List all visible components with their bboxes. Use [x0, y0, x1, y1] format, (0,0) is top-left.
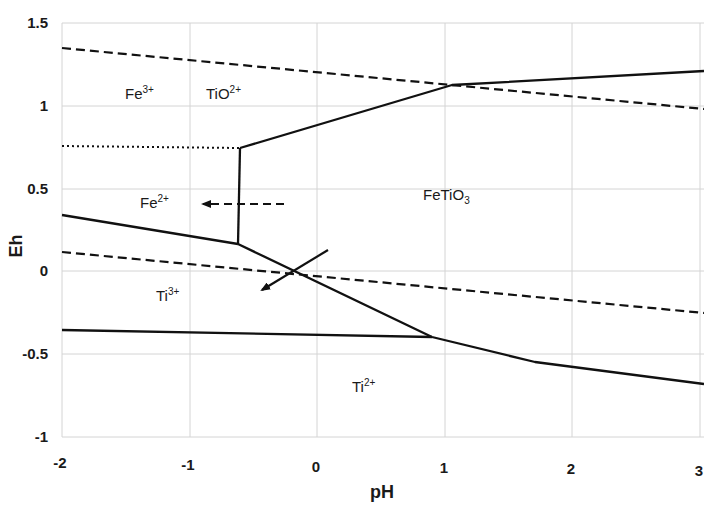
upper-water-line [62, 48, 704, 109]
y-tick: 0.5 [27, 180, 48, 197]
y-tick: 1.5 [27, 14, 48, 31]
region-label-tio2: TiO2+ [206, 84, 241, 102]
pourbaix-diagram: 1.5 1 0.5 0 -0.5 -1 -2 -1 0 1 2 3 pH Eh … [0, 0, 704, 506]
y-tick: -1 [35, 428, 48, 445]
ti3-ti2-boundary [62, 330, 432, 337]
x-tick: 3 [695, 462, 703, 479]
x-tick: -2 [53, 454, 66, 471]
fetio3-lower-boundary [238, 244, 704, 384]
x-tick: 2 [567, 460, 575, 477]
phase-boundaries [62, 71, 704, 384]
y-tick: 1 [40, 97, 48, 114]
water-stability-lines [62, 48, 704, 313]
fetio3-tio2-boundary [240, 71, 704, 148]
region-label-fetio3: FeTiO3 [423, 186, 470, 206]
region-label-ti2: Ti2+ [352, 377, 376, 395]
solid-arrow-down-left-icon [262, 250, 328, 290]
y-axis-ticks: 1.5 1 0.5 0 -0.5 -1 [22, 14, 48, 445]
region-label-ti3: Ti3+ [156, 286, 180, 304]
y-tick: -0.5 [22, 345, 48, 362]
y-axis-label: Eh [6, 234, 26, 257]
region-label-fe3: Fe3+ [125, 84, 154, 102]
fe3-fe2-dotted-line [62, 146, 239, 148]
region-label-fe2: Fe2+ [140, 193, 169, 211]
x-tick: 0 [312, 458, 320, 475]
x-tick: -1 [181, 456, 194, 473]
x-tick: 1 [440, 459, 448, 476]
x-axis-ticks: -2 -1 0 1 2 3 [53, 454, 703, 479]
x-axis-label: pH [370, 482, 394, 502]
fe2-ti3-boundary [62, 215, 238, 244]
y-tick: 0 [40, 262, 48, 279]
fetio3-fe2-vertical [238, 148, 240, 244]
